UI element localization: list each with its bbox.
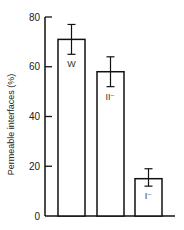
y-tick-label: 0: [34, 211, 40, 222]
y-axis-label: Permeable interfaces (%): [6, 74, 16, 176]
bar-label: II⁻: [105, 92, 115, 102]
y-tick-label: 60: [29, 61, 41, 72]
y-tick-label: 20: [29, 161, 41, 172]
y-tick-label: 80: [29, 12, 41, 23]
y-tick-label: 40: [29, 111, 41, 122]
bar-label: I⁻: [145, 191, 153, 201]
bar-label: W: [67, 59, 76, 69]
bar-chart: 020406080Permeable interfaces (%)WII⁻I⁻: [0, 0, 184, 230]
